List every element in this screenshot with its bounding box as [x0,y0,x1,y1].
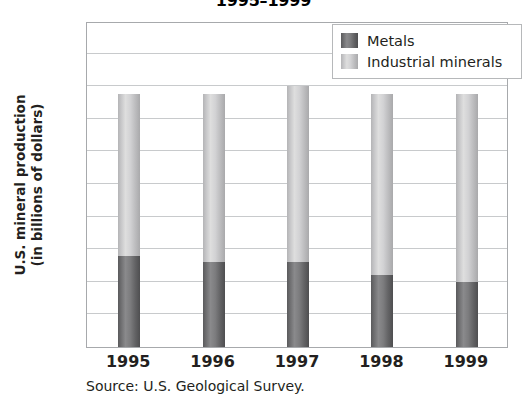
chart-figure: 1995–1999 U.S. mineral production (in bi… [0,0,527,408]
legend-swatch-industrial-minerals-icon [341,54,358,69]
y-axis-title-line-1: U.S. mineral production [12,60,29,310]
x-tick-label-1996: 1996 [168,352,258,371]
x-tick-label-1997: 1997 [252,352,342,371]
legend-label-metals: Metals [367,33,415,49]
bar-segment-1997-metals[interactable] [287,262,309,347]
source-note: Source: U.S. Geological Survey. [86,378,305,394]
x-tick-label-1995: 1995 [83,352,173,371]
chart-title: 1995–1999 [0,0,527,10]
y-axis-title-line-2: (in billions of dollars) [29,60,46,310]
legend-item-metals: Metals [341,30,513,51]
legend-swatch-metals-icon [341,33,358,48]
chart-legend: Metals Industrial minerals [332,24,522,79]
bar-segment-1999-industrial-minerals[interactable] [456,94,478,282]
bar-segment-1998-metals[interactable] [371,275,393,347]
legend-label-industrial-minerals: Industrial minerals [367,54,502,70]
bar-segment-1998-industrial-minerals[interactable] [371,94,393,275]
bar-segment-1999-metals[interactable] [456,282,478,347]
x-tick-label-1998: 1998 [336,352,426,371]
bar-segment-1996-metals[interactable] [203,262,225,347]
bar-segment-1996-industrial-minerals[interactable] [203,94,225,262]
bar-segment-1995-metals[interactable] [118,256,140,347]
bar-segment-1997-industrial-minerals[interactable] [287,86,309,262]
legend-item-industrial-minerals: Industrial minerals [341,51,513,72]
bar-segment-1995-industrial-minerals[interactable] [118,94,140,256]
y-axis-title: U.S. mineral production (in billions of … [12,60,46,310]
x-tick-label-1999: 1999 [421,352,511,371]
